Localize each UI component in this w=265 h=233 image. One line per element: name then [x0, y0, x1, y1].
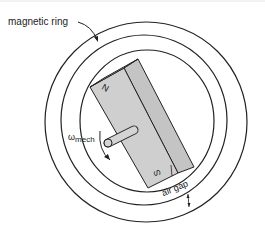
shaft-end	[104, 139, 112, 147]
air-gap-arrow-icon	[187, 194, 191, 207]
magnetic-ring-leader	[78, 22, 97, 40]
magnetic-ring-label: magnetic ring	[8, 16, 68, 27]
bar-magnet	[90, 59, 194, 188]
leader-arrowhead-icon	[94, 36, 98, 42]
air-gap-label: air gap	[160, 178, 189, 198]
magnet-diagram: ωmech N S air gap magnetic ring	[0, 0, 265, 233]
